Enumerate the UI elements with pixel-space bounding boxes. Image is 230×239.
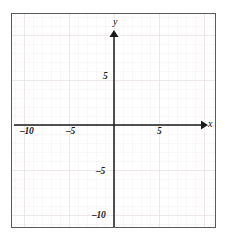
y-tick-label-neg-five: –5 — [96, 167, 105, 177]
axes-svg — [12, 14, 217, 229]
x-axis-label: x — [208, 119, 212, 129]
x-tick-label-neg-ten: –10 — [20, 127, 34, 137]
y-axis-arrow-icon — [110, 30, 119, 37]
x-tick-label-pos-five: 5 — [157, 127, 162, 137]
coordinate-plane-figure: –10 –5 5 5 –5 –10 x y — [0, 0, 230, 239]
x-tick-label-neg-five: –5 — [66, 127, 75, 137]
y-tick-label-neg-ten: –10 — [92, 211, 106, 221]
x-axis-arrow-icon — [201, 121, 208, 130]
plot-frame — [11, 13, 216, 228]
y-tick-label-pos-five: 5 — [103, 72, 108, 82]
y-axis-label: y — [113, 17, 117, 27]
